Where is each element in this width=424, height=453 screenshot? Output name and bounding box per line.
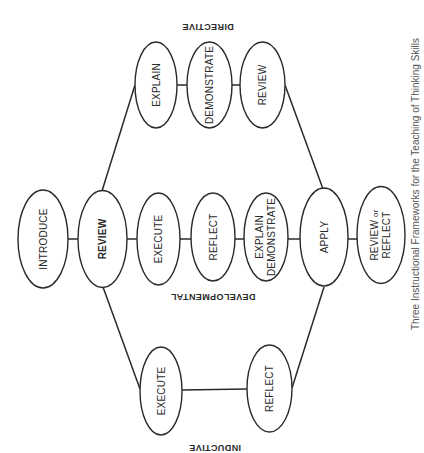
node-directive-review: REVIEW [240, 42, 285, 128]
node-label: APPLY [319, 221, 330, 254]
node-developmental-execute: EXECUTE [137, 193, 180, 285]
node-label-line2: REFLECT [381, 212, 392, 259]
node-label-line1: REVIEW or [369, 209, 380, 260]
node-label: REVIEW [97, 218, 108, 259]
node-label: REFLECT [264, 365, 275, 412]
node-directive-demonstrate: DEMONSTRATE [187, 42, 232, 128]
inductive-group: EXECUTE REFLECT INDUCTIVE [140, 345, 292, 453]
node-label: EXPLAIN [151, 63, 162, 107]
node-developmental-explain-demonstrate: EXPLAIN DEMONSTRATE [244, 193, 288, 281]
developmental-group: INTRODUCE REVIEW EXECUTE REFLECT EXPLAIN… [18, 187, 405, 302]
edge-inductive-to-apply [292, 287, 324, 388]
node-label: EXECUTE [153, 215, 164, 264]
edge-review-to-directive [102, 85, 135, 191]
node-review-main: REVIEW [78, 191, 127, 288]
directive-group: DIRECTIVE EXPLAIN DEMONSTRATE REVIEW [135, 22, 285, 128]
node-inductive-reflect: REFLECT [247, 345, 292, 432]
node-inductive-execute: EXECUTE [140, 347, 182, 435]
node-label: EXECUTE [156, 367, 167, 416]
node-review-or-reflect: REVIEW or REFLECT [357, 187, 405, 284]
edge-directive-to-apply [285, 85, 323, 189]
edge-inductive-execute-reflect [182, 389, 247, 390]
diagram-canvas: DIRECTIVE EXPLAIN DEMONSTRATE REVIEW INT… [0, 0, 424, 453]
edge-review-to-inductive [103, 287, 140, 389]
node-label: REFLECT [208, 214, 219, 261]
node-apply: APPLY [300, 188, 348, 286]
directive-label: DIRECTIVE [182, 22, 234, 32]
instructional-frameworks-diagram: DIRECTIVE EXPLAIN DEMONSTRATE REVIEW INT… [0, 0, 424, 453]
node-directive-explain: EXPLAIN [135, 42, 177, 128]
node-label: DEMONSTRATE [204, 46, 215, 124]
node-label: REVIEW [257, 64, 268, 105]
node-label: INTRODUCE [38, 208, 49, 269]
node-label-line1: EXPLAIN [254, 215, 265, 259]
developmental-label: DEVELOPMENTAL [170, 292, 255, 302]
node-label-line2: DEMONSTRATE [266, 198, 277, 276]
node-introduce: INTRODUCE [18, 190, 68, 288]
figure-caption: Three Instructional Frameworks for the T… [410, 38, 421, 330]
inductive-label: INDUCTIVE [189, 443, 241, 453]
node-developmental-reflect: REFLECT [191, 193, 235, 281]
